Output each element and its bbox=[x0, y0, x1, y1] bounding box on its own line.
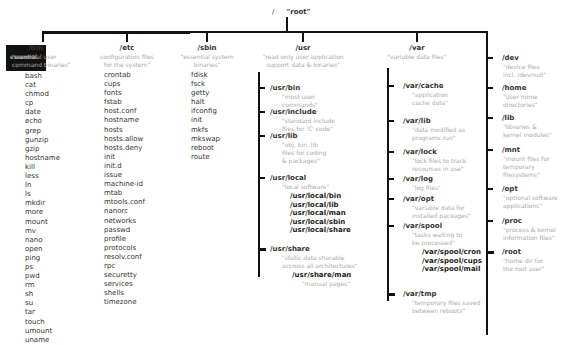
var-subdir[interactable]: /var/lock bbox=[403, 148, 437, 156]
sbin-header[interactable]: /sbin bbox=[197, 44, 216, 52]
bin-file[interactable]: pwd bbox=[25, 272, 60, 281]
usr-subdir[interactable]: /usr/bin bbox=[270, 84, 300, 92]
usr-subdir[interactable]: /usr/lib bbox=[270, 132, 298, 140]
bin-file[interactable]: uname bbox=[25, 336, 60, 345]
var-subsubdir[interactable]: /var/spool/mail bbox=[422, 265, 480, 274]
bin-file[interactable]: mkdir bbox=[25, 199, 60, 208]
usr-subdir[interactable]: /usr/local bbox=[270, 174, 306, 182]
bin-file[interactable]: cp bbox=[25, 99, 60, 108]
bin-file[interactable]: umount bbox=[25, 327, 60, 336]
other-dir[interactable]: /proc bbox=[502, 217, 522, 225]
sbin-file[interactable]: halt bbox=[191, 98, 220, 107]
bin-file[interactable]: rm bbox=[25, 281, 60, 290]
etc-file[interactable]: services bbox=[104, 280, 145, 289]
bin-file[interactable]: bash bbox=[25, 72, 60, 81]
sbin-file[interactable]: getty bbox=[191, 89, 220, 98]
sbin-file[interactable]: mkswap bbox=[191, 135, 220, 144]
usr-subdir[interactable]: /usr/share bbox=[270, 245, 310, 253]
bin-file[interactable]: kill bbox=[25, 163, 60, 172]
sbin-file[interactable]: route bbox=[191, 153, 220, 162]
etc-file[interactable]: mtab bbox=[104, 189, 145, 198]
usr-subsubdir[interactable]: /usr/local/sbin bbox=[290, 218, 345, 227]
etc-file[interactable]: hosts bbox=[104, 126, 145, 135]
other-dir[interactable]: /opt bbox=[502, 185, 518, 193]
usr-subsubdir[interactable]: /usr/local/man bbox=[290, 209, 346, 218]
etc-file[interactable]: init.d bbox=[104, 162, 145, 171]
bin-file[interactable]: echo bbox=[25, 117, 60, 126]
etc-file[interactable]: passwd bbox=[104, 226, 145, 235]
sbin-file[interactable]: fdisk bbox=[191, 71, 220, 80]
etc-file[interactable]: networks bbox=[104, 217, 145, 226]
bin-file[interactable]: gunzip bbox=[25, 136, 60, 145]
etc-file[interactable]: cups bbox=[104, 80, 145, 89]
etc-file[interactable]: machine-id bbox=[104, 180, 145, 189]
etc-file[interactable]: shells bbox=[104, 289, 145, 298]
var-subdir[interactable]: /var/lib bbox=[403, 117, 431, 125]
bin-file[interactable]: chmod bbox=[25, 90, 60, 99]
sbin-file[interactable]: fsck bbox=[191, 80, 220, 89]
sbin-file[interactable]: ifconfig bbox=[191, 107, 220, 116]
var-subdir[interactable]: /var/spool bbox=[403, 222, 442, 230]
usr-subsubdir[interactable]: /usr/local/share bbox=[290, 226, 351, 235]
other-dir[interactable]: /mnt bbox=[502, 146, 520, 154]
bin-header[interactable]: /bin bbox=[28, 44, 43, 52]
etc-file[interactable]: crontab bbox=[104, 71, 145, 80]
etc-file[interactable]: init bbox=[104, 153, 145, 162]
bin-file[interactable]: tar bbox=[25, 308, 60, 317]
other-dir[interactable]: /lib bbox=[502, 114, 514, 122]
usr-subdir[interactable]: /usr/include bbox=[270, 108, 316, 116]
etc-file[interactable]: host.conf bbox=[104, 107, 145, 116]
bin-file[interactable]: gzip bbox=[25, 145, 60, 154]
etc-file[interactable]: protocols bbox=[104, 244, 145, 253]
other-dir[interactable]: /root bbox=[502, 248, 521, 256]
bin-file[interactable]: grep bbox=[25, 127, 60, 136]
etc-file[interactable]: mtools.conf bbox=[104, 198, 145, 207]
bin-file[interactable]: more bbox=[25, 208, 60, 217]
other-dir[interactable]: /dev bbox=[502, 54, 519, 62]
sbin-file[interactable]: init bbox=[191, 116, 220, 125]
etc-file[interactable]: rpc bbox=[104, 262, 145, 271]
var-desc: "variable data files" bbox=[387, 53, 446, 61]
usr-subsubdir[interactable]: /usr/share/man bbox=[292, 271, 351, 280]
etc-file[interactable]: hosts.deny bbox=[104, 144, 145, 153]
bin-file[interactable]: ls bbox=[25, 190, 60, 199]
etc-file[interactable]: timezone bbox=[104, 298, 145, 307]
etc-file[interactable]: nanorc bbox=[104, 207, 145, 216]
bin-file[interactable]: su bbox=[25, 299, 60, 308]
etc-file[interactable]: issue bbox=[104, 171, 145, 180]
etc-file[interactable]: securetty bbox=[104, 271, 145, 280]
bin-file[interactable]: touch bbox=[25, 318, 60, 327]
var-subdir[interactable]: /var/tmp bbox=[403, 290, 437, 298]
etc-file[interactable]: hosts.allow bbox=[104, 135, 145, 144]
bin-file[interactable]: ln bbox=[25, 181, 60, 190]
var-subdir[interactable]: /var/log bbox=[403, 175, 433, 183]
etc-file[interactable]: fonts bbox=[104, 89, 145, 98]
bin-file[interactable]: mount bbox=[25, 218, 60, 227]
etc-file[interactable]: fstab bbox=[104, 98, 145, 107]
bin-file[interactable]: date bbox=[25, 108, 60, 117]
var-subdir[interactable]: /var/opt bbox=[403, 195, 434, 203]
other-dir[interactable]: /home bbox=[502, 84, 526, 92]
etc-file[interactable]: resolv.conf bbox=[104, 253, 145, 262]
sbin-file[interactable]: mkfs bbox=[191, 126, 220, 135]
bin-file[interactable]: ping bbox=[25, 254, 60, 263]
var-subdir[interactable]: /var/cache bbox=[403, 82, 444, 90]
etc-file[interactable]: profile bbox=[104, 235, 145, 244]
etc-file[interactable]: hostname bbox=[104, 116, 145, 125]
bin-file[interactable]: hostname bbox=[25, 154, 60, 163]
usr-subsubdir[interactable]: /usr/local/bin bbox=[290, 192, 341, 201]
bin-file[interactable]: nano bbox=[25, 236, 60, 245]
bin-file[interactable]: ps bbox=[25, 263, 60, 272]
bin-file[interactable]: mv bbox=[25, 227, 60, 236]
etc-header[interactable]: /etc bbox=[120, 44, 135, 52]
bin-file[interactable]: open bbox=[25, 245, 60, 254]
var-header[interactable]: /var bbox=[409, 44, 424, 52]
bin-file[interactable]: less bbox=[25, 172, 60, 181]
usr-subsubdir[interactable]: /usr/local/lib bbox=[290, 201, 339, 210]
bin-file[interactable]: cat bbox=[25, 81, 60, 90]
usr-header[interactable]: /usr bbox=[295, 44, 310, 52]
var-subsubdir[interactable]: /var/spool/cron bbox=[422, 248, 481, 257]
var-subsubdir[interactable]: /var/spool/cups bbox=[422, 257, 482, 266]
bin-file[interactable]: sh bbox=[25, 290, 60, 299]
sbin-file[interactable]: reboot bbox=[191, 144, 220, 153]
